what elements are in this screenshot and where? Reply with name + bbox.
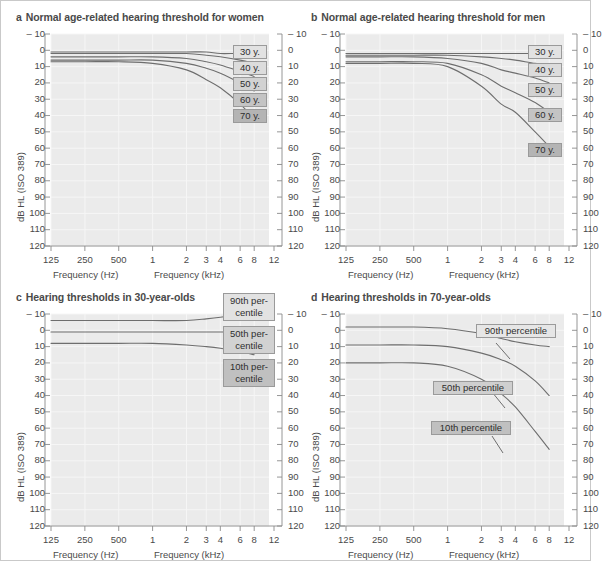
x-axis-title-khz: Frequency (kHz) bbox=[449, 549, 519, 560]
y-tick-left-50: 50 bbox=[13, 125, 45, 136]
x-tick-500: 500 bbox=[399, 534, 429, 545]
y-tick-left-110: 110 bbox=[13, 503, 45, 514]
y-tick-right-110: 110 bbox=[583, 503, 606, 514]
x-tick-500: 500 bbox=[399, 254, 429, 265]
panel-c-plot bbox=[1, 281, 297, 561]
y-tick-right-90: 90 bbox=[583, 471, 606, 482]
x-axis-title-hz: Frequency (Hz) bbox=[53, 269, 118, 280]
y-tick-left-0: 0 bbox=[13, 44, 45, 55]
y-tick-left-10: 10 bbox=[308, 60, 340, 71]
curve-label-b-0: 30 y. bbox=[528, 45, 562, 59]
curve-label-c-2: 10th per-centile bbox=[223, 359, 275, 387]
curve-label-b-2: 50 y. bbox=[528, 83, 562, 97]
y-axis-title: dB HL (ISO 389) bbox=[15, 152, 26, 222]
x-axis-title-hz: Frequency (Hz) bbox=[348, 269, 413, 280]
y-tick-left--10: – 10 bbox=[308, 28, 340, 39]
y-tick-right-20: 20 bbox=[583, 356, 606, 367]
y-tick-left-10: 10 bbox=[13, 60, 45, 71]
y-tick-right-70: 70 bbox=[583, 438, 606, 449]
y-axis-title: dB HL (ISO 389) bbox=[15, 432, 26, 502]
y-axis-title: dB HL (ISO 389) bbox=[310, 152, 321, 222]
x-tick-125: 125 bbox=[36, 254, 66, 265]
curve-label-b-3: 60 y. bbox=[528, 108, 562, 122]
y-tick-right-50: 50 bbox=[583, 405, 606, 416]
curve-label-b-1: 40 y. bbox=[528, 63, 562, 77]
y-axis-title: dB HL (ISO 389) bbox=[310, 432, 321, 502]
x-tick-500: 500 bbox=[104, 254, 134, 265]
y-tick-left-20: 20 bbox=[13, 76, 45, 87]
y-tick-left-60: 60 bbox=[308, 422, 340, 433]
x-tick-250: 250 bbox=[365, 254, 395, 265]
y-tick-left-20: 20 bbox=[308, 76, 340, 87]
panel-a-plot bbox=[1, 1, 297, 282]
y-tick-right--10: – 10 bbox=[583, 28, 606, 39]
x-axis-title-hz: Frequency (Hz) bbox=[53, 549, 118, 560]
y-tick-left-60: 60 bbox=[13, 142, 45, 153]
y-tick-left-10: 10 bbox=[308, 340, 340, 351]
y-tick-left-30: 30 bbox=[308, 93, 340, 104]
y-tick-left-30: 30 bbox=[13, 93, 45, 104]
x-axis-title-khz: Frequency (kHz) bbox=[449, 269, 519, 280]
x-tick-125: 125 bbox=[36, 534, 66, 545]
x-axis-title-khz: Frequency (kHz) bbox=[154, 269, 224, 280]
panel-a: aNormal age-related hearing threshold fo… bbox=[1, 1, 297, 282]
plot-background bbox=[346, 314, 564, 526]
curve-label-d-0: 90th percentile bbox=[476, 324, 556, 338]
y-tick-left-40: 40 bbox=[308, 109, 340, 120]
curve-label-a-0: 30 y. bbox=[233, 45, 267, 59]
y-tick-left-10: 10 bbox=[13, 340, 45, 351]
y-tick-left-0: 0 bbox=[308, 324, 340, 335]
y-tick-right-40: 40 bbox=[583, 389, 606, 400]
curve-label-c-2-line2: centile bbox=[227, 373, 271, 385]
y-tick-right-0: 0 bbox=[583, 324, 606, 335]
y-tick-right-40: 40 bbox=[583, 109, 606, 120]
y-tick-left-120: 120 bbox=[13, 240, 45, 251]
curve-label-a-4: 70 y. bbox=[233, 109, 267, 123]
curve-label-a-3: 60 y. bbox=[233, 93, 267, 107]
curve-label-c-1: 50th per-centile bbox=[223, 326, 275, 354]
y-tick-left-50: 50 bbox=[13, 405, 45, 416]
curve-label-a-2: 50 y. bbox=[233, 77, 267, 91]
curve-label-c-0: 90th per-centile bbox=[223, 293, 275, 321]
x-tick-12000: 12 bbox=[554, 254, 584, 265]
curve-label-a-1: 40 y. bbox=[233, 61, 267, 75]
curve-label-c-0-line2: centile bbox=[227, 307, 271, 319]
y-tick-right-0: 0 bbox=[583, 44, 606, 55]
y-tick-right-50: 50 bbox=[583, 125, 606, 136]
curve-label-c-0-line1: 90th per- bbox=[227, 295, 271, 307]
y-tick-left-110: 110 bbox=[13, 223, 45, 234]
curve-label-c-1-line1: 50th per- bbox=[227, 328, 271, 340]
y-tick-left-0: 0 bbox=[13, 324, 45, 335]
y-tick-left-20: 20 bbox=[308, 356, 340, 367]
y-tick-right-30: 30 bbox=[583, 373, 606, 384]
y-tick-left-120: 120 bbox=[308, 520, 340, 531]
y-tick-right-20: 20 bbox=[583, 76, 606, 87]
x-tick-125: 125 bbox=[331, 534, 361, 545]
y-tick-left-40: 40 bbox=[13, 109, 45, 120]
panel-d: dHearing thresholds in 70-year-olds– 10–… bbox=[296, 281, 592, 561]
curve-label-d-2: 10th percentile bbox=[431, 421, 511, 435]
y-tick-right-120: 120 bbox=[583, 240, 606, 251]
y-tick-left-50: 50 bbox=[308, 125, 340, 136]
curve-label-c-1-line2: centile bbox=[227, 340, 271, 352]
y-tick-left-120: 120 bbox=[13, 520, 45, 531]
y-tick-left-50: 50 bbox=[308, 405, 340, 416]
y-tick-left-60: 60 bbox=[13, 422, 45, 433]
y-tick-right-100: 100 bbox=[583, 487, 606, 498]
y-tick-left-0: 0 bbox=[308, 44, 340, 55]
y-tick-right-100: 100 bbox=[583, 207, 606, 218]
y-tick-right-120: 120 bbox=[583, 520, 606, 531]
panel-c: cHearing thresholds in 30-year-olds– 10–… bbox=[1, 281, 297, 561]
y-tick-left--10: – 10 bbox=[308, 308, 340, 319]
x-tick-12000: 12 bbox=[554, 534, 584, 545]
x-tick-125: 125 bbox=[331, 254, 361, 265]
y-tick-right-10: 10 bbox=[583, 60, 606, 71]
panel-b-plot bbox=[296, 1, 592, 282]
y-tick-left-60: 60 bbox=[308, 142, 340, 153]
y-tick-right-30: 30 bbox=[583, 93, 606, 104]
x-tick-1000: 1 bbox=[433, 254, 463, 265]
y-tick-right--10: – 10 bbox=[583, 308, 606, 319]
curve-label-c-2-line1: 10th per- bbox=[227, 361, 271, 373]
x-tick-12000: 12 bbox=[259, 254, 289, 265]
